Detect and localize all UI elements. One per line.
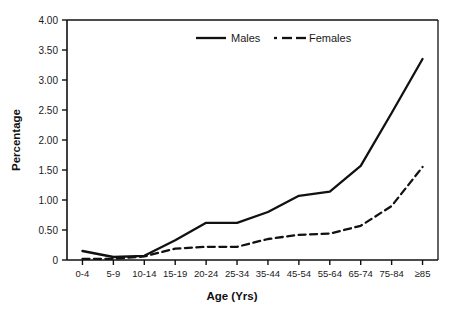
y-tick-label: 0.50 (39, 225, 59, 236)
x-tick-label: 20-24 (194, 268, 218, 279)
x-tick-label: ≥85 (415, 268, 431, 279)
y-axis-title: Percentage (10, 109, 22, 171)
y-tick-label: 0 (52, 255, 58, 266)
x-axis-title: Age (Yrs) (206, 290, 257, 302)
y-tick-label: 3.50 (39, 45, 59, 56)
x-tick-label: 35-44 (256, 268, 280, 279)
x-axis-category-labels: 0-45-910-1415-1920-2425-3435-4445-5455-6… (76, 268, 431, 279)
x-tick-label: 55-64 (318, 268, 342, 279)
y-tick-label: 2.00 (39, 135, 59, 146)
plot-background (67, 20, 438, 260)
line-chart: 00.501.001.502.002.503.003.504.00 0-45-9… (0, 0, 465, 313)
y-tick-label: 3.00 (39, 75, 59, 86)
y-tick-label: 4.00 (39, 15, 59, 26)
y-tick-label: 1.00 (39, 195, 59, 206)
x-tick-label: 65-74 (349, 268, 373, 279)
y-tick-label: 1.50 (39, 165, 59, 176)
legend-label-females: Females (309, 32, 352, 44)
y-axis-tick-labels: 00.501.001.502.002.503.003.504.00 (39, 15, 59, 266)
x-tick-label: 15-19 (163, 268, 187, 279)
x-tick-label: 0-4 (76, 268, 90, 279)
x-tick-label: 25-34 (225, 268, 249, 279)
x-tick-label: 5-9 (107, 268, 121, 279)
x-tick-label: 10-14 (132, 268, 156, 279)
x-tick-label: 45-54 (287, 268, 311, 279)
chart-page: 00.501.001.502.002.503.003.504.00 0-45-9… (0, 0, 465, 313)
legend-label-males: Males (231, 32, 261, 44)
y-tick-label: 2.50 (39, 105, 59, 116)
x-tick-label: 75-84 (379, 268, 403, 279)
